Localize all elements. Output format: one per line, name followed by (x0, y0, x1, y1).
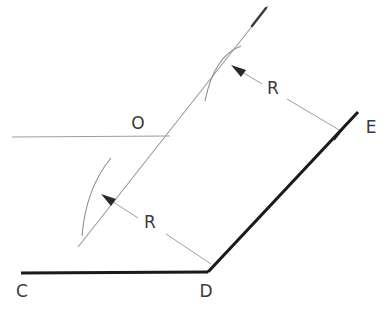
dimension-leader-upper-right (287, 99, 341, 131)
dimension-arrowhead-lower-icon (101, 194, 116, 206)
label-point-e: E (366, 117, 377, 137)
line-drawing-svg: C D E O R R (0, 0, 392, 314)
drawing-canvas: C D E O R R (0, 0, 392, 314)
dimension-arrowhead-upper-icon (231, 65, 246, 77)
arc-upper (205, 46, 241, 101)
label-point-c: C (16, 281, 28, 301)
tangent-horizontal-line (12, 136, 170, 137)
thick-line-cd (21, 272, 208, 273)
thick-line-de (208, 112, 358, 272)
label-point-o: O (131, 113, 144, 133)
dimension-leader-lower-right (166, 234, 211, 264)
label-point-d: D (199, 281, 212, 301)
construction-diagonal-line (78, 6, 268, 247)
diagonal-arrow-tip-icon (252, 8, 266, 26)
label-radius-upper: R (267, 78, 279, 98)
label-radius-lower: R (144, 212, 156, 232)
